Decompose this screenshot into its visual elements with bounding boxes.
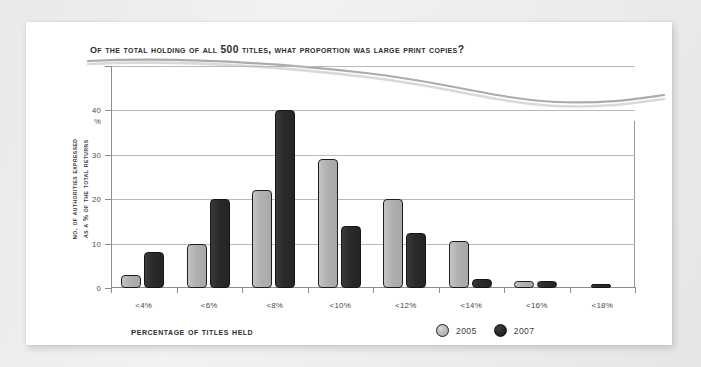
y-axis-tick — [105, 244, 112, 245]
chart-card: Of the total holding of all 500 titles, … — [26, 22, 672, 345]
y-axis-unit-label: % — [94, 117, 101, 126]
plot-area: % 010203040 <4%<6%<8%<10%<12%<14%<16%<18… — [111, 66, 635, 288]
x-axis-tick — [570, 287, 571, 293]
bar-group — [314, 66, 380, 288]
y-axis-tick-label: 0 — [96, 284, 101, 293]
bar-2005-<4%[interactable] — [121, 275, 141, 288]
x-axis-tick — [635, 287, 636, 293]
legend-swatch-2007-icon — [494, 324, 507, 337]
y-axis-tick — [105, 155, 112, 156]
legend-item-2005: 2005 — [436, 324, 477, 337]
bar-2007-<16%[interactable] — [537, 281, 557, 288]
bar-2007-<8%[interactable] — [275, 110, 295, 288]
x-axis-tick-label: <6% — [201, 301, 218, 310]
y-axis-tick — [105, 199, 112, 200]
y-axis-tick-label: 30 — [92, 150, 101, 159]
bar-group — [248, 66, 314, 288]
chart-title: Of the total holding of all 500 titles, … — [90, 42, 650, 56]
bar-2005-<12%[interactable] — [383, 199, 403, 288]
bar-group — [117, 66, 183, 288]
x-axis-tick — [308, 287, 309, 293]
bar-group — [379, 66, 445, 288]
bar-2007-<10%[interactable] — [341, 226, 361, 288]
bar-2005-<14%[interactable] — [449, 241, 469, 288]
y-axis-caption-line2: as a % of the total returns — [81, 104, 92, 274]
chart-legend: 2005 2007 — [436, 324, 534, 337]
x-axis-title: Percentage of titles held — [131, 325, 253, 337]
bar-2005-<6%[interactable] — [187, 244, 207, 288]
x-axis-tick-label: <8% — [266, 301, 283, 310]
x-axis-tick-label: <14% — [461, 301, 482, 310]
y-axis-tick — [105, 66, 112, 67]
x-axis-tick — [242, 287, 243, 293]
legend-swatch-2005-icon — [436, 324, 449, 337]
y-axis-tick-label: 40 — [92, 106, 101, 115]
bar-2007-<18%[interactable] — [591, 284, 611, 288]
x-axis-tick — [373, 287, 374, 293]
legend-label-2005: 2005 — [456, 326, 477, 336]
y-axis-line — [111, 66, 112, 288]
x-axis-tick-label: <10% — [330, 301, 351, 310]
y-axis-tick — [105, 110, 112, 111]
x-axis-tick-label: <12% — [395, 301, 416, 310]
bar-2007-<4%[interactable] — [144, 252, 164, 288]
legend-item-2007: 2007 — [494, 324, 535, 337]
x-axis-tick — [439, 287, 440, 293]
bar-2005-<16%[interactable] — [514, 281, 534, 288]
x-axis-tick — [177, 287, 178, 293]
y-axis-caption: No. of authorities expressed as a % of t… — [70, 104, 100, 274]
bar-2005-<10%[interactable] — [318, 159, 338, 288]
bar-2007-<6%[interactable] — [210, 199, 230, 288]
bar-2007-<14%[interactable] — [472, 279, 492, 288]
bar-group — [183, 66, 249, 288]
y-axis-tick-label: 10 — [92, 239, 101, 248]
legend-label-2007: 2007 — [514, 326, 535, 336]
x-axis-tick — [504, 287, 505, 293]
x-axis-tick — [111, 287, 112, 293]
bar-2005-<8%[interactable] — [252, 190, 272, 288]
y-axis-tick-label: 20 — [92, 195, 101, 204]
bar-group — [576, 66, 642, 288]
bar-group — [445, 66, 511, 288]
bar-2007-<12%[interactable] — [406, 233, 426, 289]
x-axis-tick-label: <18% — [592, 301, 613, 310]
y-axis-caption-line1: No. of authorities expressed — [70, 104, 81, 274]
x-axis-tick-label: <16% — [526, 301, 547, 310]
x-axis-tick-label: <4% — [135, 301, 152, 310]
bar-group — [510, 66, 576, 288]
